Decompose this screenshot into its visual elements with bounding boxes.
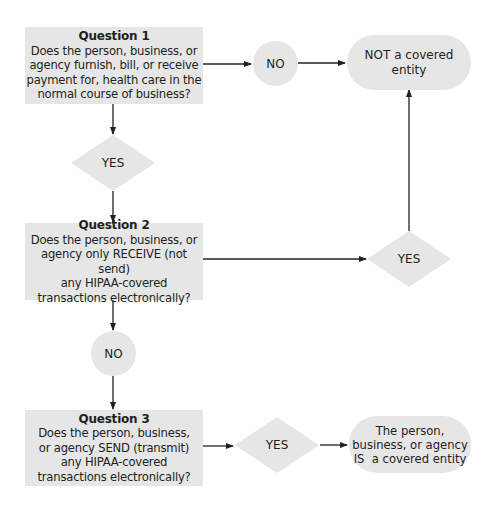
yes-label: YES (71, 156, 155, 170)
not-covered-line: entity (392, 63, 427, 78)
question-1-line: payment for, health care in the (27, 73, 202, 88)
question-3-line: transactions electronically? (37, 470, 190, 485)
question-1-line: agency furnish, bill, or receive (29, 58, 198, 73)
yes-diamond-3: YES (235, 417, 319, 473)
no-circle-2: NO (91, 331, 136, 376)
question-2-line: Does the person, business, or (31, 233, 198, 248)
question-2-line: any HIPAA-covered (61, 276, 168, 291)
yes-label: YES (367, 252, 451, 266)
no-label: NO (266, 57, 284, 71)
question-2-line: agency only RECEIVE (not send) (25, 247, 203, 276)
yes-label: YES (235, 438, 319, 452)
question-2-box: Question 2 Does the person, business, or… (25, 223, 203, 300)
question-3-title: Question 3 (78, 412, 149, 427)
question-3-line: any HIPAA-covered (61, 455, 168, 470)
yes-diamond-2: YES (367, 231, 451, 287)
question-1-box: Question 1 Does the person, business, or… (25, 27, 203, 104)
question-3-line: Does the person, business, (38, 426, 190, 441)
question-2-line: transactions electronically? (37, 291, 190, 306)
no-label: NO (104, 347, 122, 361)
not-covered-entity-terminal: NOT a covered entity (347, 35, 471, 90)
is-covered-entity-terminal: The person, business, or agency IS a cov… (349, 416, 471, 473)
question-1-line: Does the person, business, or (31, 44, 198, 59)
no-circle-1: NO (253, 41, 298, 86)
question-2-title: Question 2 (78, 218, 149, 233)
not-covered-line: NOT a covered (365, 48, 454, 63)
question-3-line: or agency SEND (transmit) (39, 441, 189, 456)
yes-diamond-1: YES (71, 135, 155, 191)
is-covered-line: IS a covered entity (354, 452, 467, 466)
is-covered-line: The person, (376, 424, 445, 438)
is-covered-line: business, or agency (352, 438, 468, 452)
question-3-box: Question 3 Does the person, business, or… (25, 410, 203, 486)
question-1-line: normal course of business? (37, 87, 190, 102)
question-1-title: Question 1 (78, 29, 149, 44)
